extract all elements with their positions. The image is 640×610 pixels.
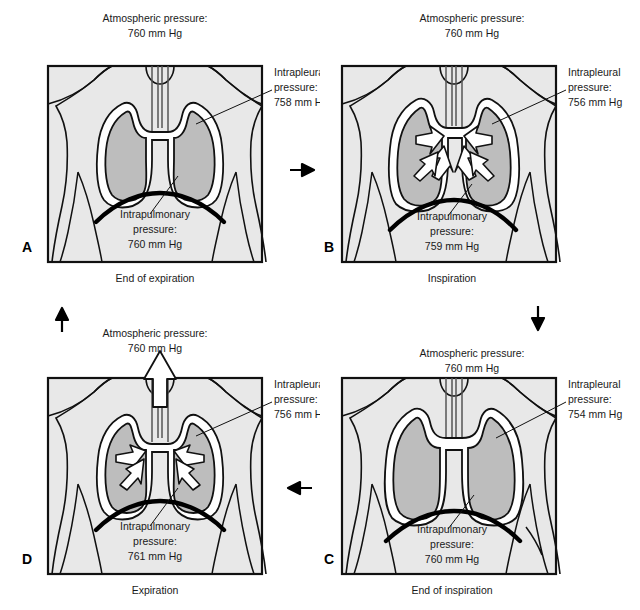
- panel-a-atmospheric-label: Atmospheric pressure:: [102, 12, 207, 24]
- panel-d-intrapleural-value: 756 mm Hg: [274, 408, 320, 420]
- panel-b-intrapulmonary-label-1: Intrapulmonary: [417, 210, 488, 222]
- panel-c-intrapleural-value: 754 mm Hg: [568, 408, 622, 420]
- panel-b-caption: Inspiration: [428, 272, 477, 284]
- panel-b: Atmospheric pressure: 760 mm Hg: [320, 0, 640, 305]
- panel-c-intrapulmonary-value: 760 mm Hg: [425, 553, 479, 565]
- panel-a-intrapleural-label-1: Intrapleural: [274, 66, 320, 78]
- cycle-arrow-a-to-b-icon: [288, 156, 316, 184]
- panel-d-letter: D: [22, 551, 32, 567]
- panel-a-intrapleural-label-2: pressure:: [274, 81, 318, 93]
- panel-a-intrapleural-value: 758 mm Hg: [274, 96, 320, 108]
- panel-b-intrapleural-value: 756 mm Hg: [568, 96, 622, 108]
- cycle-arrow-b-to-c-icon: [524, 304, 552, 332]
- panel-d-intrapulmonary-label-2: pressure:: [133, 535, 177, 547]
- panel-c-intrapulmonary-label-2: pressure:: [430, 538, 474, 550]
- panel-a-letter: A: [22, 239, 32, 255]
- panel-a-atmospheric-value: 760 mm Hg: [128, 27, 182, 39]
- panel-b-atmospheric-label: Atmospheric pressure:: [419, 12, 524, 24]
- cycle-arrow-d-to-a-icon: [48, 306, 76, 334]
- panel-c-intrapleural-label-1: Intrapleural: [568, 378, 621, 390]
- panel-a: Atmospheric pressure: 760 mm Hg: [0, 0, 320, 305]
- panel-b-intrapleural-label-2: pressure:: [568, 81, 612, 93]
- panel-d-intrapulmonary-value: 761 mm Hg: [128, 550, 182, 562]
- figure-canvas: Atmospheric pressure: 760 mm Hg: [0, 0, 640, 610]
- panel-d-intrapleural-label-1: Intrapleural: [274, 378, 320, 390]
- panel-c-intrapleural-label-2: pressure:: [568, 393, 612, 405]
- panel-a-caption: End of expiration: [116, 272, 195, 284]
- panel-a-intrapulmonary-value: 760 mm Hg: [128, 238, 182, 250]
- panel-d-intrapleural-label-2: pressure:: [274, 393, 318, 405]
- cycle-arrow-c-to-d-icon: [286, 474, 314, 502]
- panel-c-atmospheric-value: 760 mm Hg: [445, 362, 499, 374]
- panel-d-intrapulmonary-label-1: Intrapulmonary: [120, 520, 191, 532]
- panel-d-caption: Expiration: [132, 584, 179, 596]
- panel-a-intrapulmonary-label-1: Intrapulmonary: [120, 208, 191, 220]
- panel-b-atmospheric-value: 760 mm Hg: [445, 27, 499, 39]
- panel-a-intrapulmonary-label-2: pressure:: [133, 223, 177, 235]
- panel-c-letter: C: [324, 551, 334, 567]
- panel-c-atmospheric-label: Atmospheric pressure:: [419, 347, 524, 359]
- panel-c-caption: End of inspiration: [411, 584, 492, 596]
- panel-d-atmospheric-value: 760 mm Hg: [128, 342, 182, 354]
- panel-d-atmospheric-label: Atmospheric pressure:: [102, 327, 207, 339]
- panel-d: Atmospheric pressure: 760 mm Hg: [0, 305, 320, 610]
- panel-b-intrapulmonary-value: 759 mm Hg: [425, 240, 479, 252]
- panel-c: Atmospheric pressure: 760 mm Hg Intraple…: [320, 305, 640, 610]
- panel-b-intrapulmonary-label-2: pressure:: [430, 225, 474, 237]
- panel-b-intrapleural-label-1: Intrapleural: [568, 66, 621, 78]
- panel-c-intrapulmonary-label-1: Intrapulmonary: [417, 523, 488, 535]
- panel-b-letter: B: [324, 239, 334, 255]
